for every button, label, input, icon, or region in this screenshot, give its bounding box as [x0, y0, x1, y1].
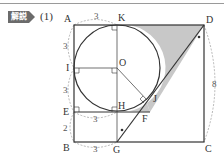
- label-e: E: [63, 106, 69, 117]
- angle-dot-d: [198, 36, 201, 39]
- label-o: O: [119, 57, 126, 68]
- label-f: F: [142, 113, 148, 124]
- dim-eb: 2: [63, 123, 68, 133]
- dim-ak: 3: [94, 11, 99, 21]
- geometry-diagram: A K D I O E H J F B G C 3 3 3 2 3 3 8: [0, 0, 224, 156]
- dim-ie: 3: [63, 85, 68, 95]
- label-i: I: [66, 62, 69, 73]
- label-b: B: [63, 142, 70, 153]
- dim-dc: 8: [212, 79, 217, 89]
- label-j: J: [153, 93, 157, 104]
- right-angle-markers: [74, 25, 144, 112]
- label-h: H: [118, 100, 125, 111]
- label-d: D: [206, 14, 213, 25]
- label-g: G: [113, 144, 120, 155]
- angle-dot-g: [121, 129, 124, 132]
- dim-bg: 3: [93, 144, 98, 154]
- line-oj: [117, 68, 147, 100]
- label-c: C: [205, 143, 212, 154]
- dim-eh: 3: [93, 114, 98, 124]
- label-a: A: [64, 13, 72, 24]
- dim-ai: 3: [63, 41, 68, 51]
- label-k: K: [118, 12, 126, 23]
